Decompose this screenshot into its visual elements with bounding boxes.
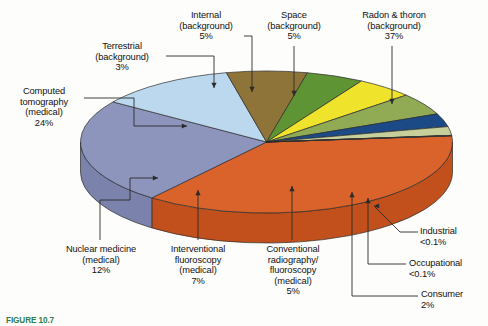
callout-radon-thoron-background: Radon & thoron (background) 37% [344, 10, 444, 42]
callout-nuclear-medicine: Nuclear medicine (medical) 12% [52, 244, 150, 276]
figure-root: Radon & thoron (background) 37%Computed … [0, 0, 488, 326]
callout-conventional-radiography: Conventional radiography/ fluoroscopy (m… [250, 244, 336, 297]
pie-top-wedges: Radon & thoron (background) 37%Computed … [81, 71, 453, 213]
callout-industrial: Industrial <0.1% [420, 226, 486, 247]
callout-terrestrial-background: Terrestrial (background) 3% [78, 41, 166, 73]
figure-caption-prefix: FIGURE 10.7 [6, 316, 54, 325]
callout-occupational: Occupational <0.1% [409, 258, 487, 279]
callout-interventional-fluoroscopy: Interventional fluoroscopy (medical) 7% [157, 244, 239, 286]
figure-caption: FIGURE 10.7 [6, 316, 482, 326]
callout-computed-tomography: Computed tomography (medical) 24% [6, 86, 82, 128]
callout-internal-background: Internal (background) 5% [170, 10, 242, 42]
callout-space-background: Space (background) 5% [258, 10, 330, 42]
callout-consumer: Consumer 2% [421, 289, 487, 310]
